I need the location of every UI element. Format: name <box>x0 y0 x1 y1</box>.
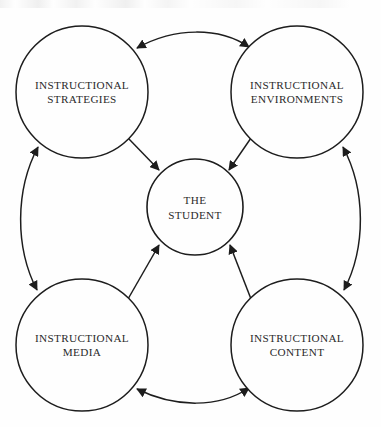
node-instructional-media[interactable]: INSTRUCTIONAL MEDIA <box>16 279 148 411</box>
node-circle-the-student[interactable] <box>147 159 243 255</box>
node-the-student[interactable]: THE STUDENT <box>147 159 243 255</box>
node-circle-instructional-strategies[interactable] <box>16 26 148 158</box>
node-label-instructional-strategies-line1: INSTRUCTIONAL <box>35 79 129 91</box>
diagram-page: INSTRUCTIONAL STRATEGIES INSTRUCTIONAL E… <box>0 0 381 427</box>
connector-media-to-student <box>128 245 159 299</box>
node-label-instructional-environments-line2: ENVIRONMENTS <box>251 93 343 105</box>
node-circle-instructional-content[interactable] <box>231 279 363 411</box>
node-circle-instructional-media[interactable] <box>16 279 148 411</box>
node-label-instructional-content-line1: INSTRUCTIONAL <box>250 332 344 344</box>
node-label-the-student-line2: STUDENT <box>168 209 221 221</box>
connector-strategies-media <box>21 147 38 290</box>
connector-strategies-to-student <box>128 138 159 170</box>
instructional-system-diagram: INSTRUCTIONAL STRATEGIES INSTRUCTIONAL E… <box>0 0 381 427</box>
connector-media-content <box>137 388 249 403</box>
node-label-instructional-media-line2: MEDIA <box>63 346 101 358</box>
node-instructional-content[interactable]: INSTRUCTIONAL CONTENT <box>231 279 363 411</box>
node-label-instructional-environments-line1: INSTRUCTIONAL <box>250 79 344 91</box>
node-label-instructional-strategies-line2: STRATEGIES <box>47 93 116 105</box>
connector-content-to-student <box>230 245 251 299</box>
node-label-instructional-media-line1: INSTRUCTIONAL <box>35 332 129 344</box>
connector-environments-content <box>343 147 360 290</box>
connector-strategies-environments <box>137 32 249 48</box>
node-circle-instructional-environments[interactable] <box>231 26 363 158</box>
node-instructional-strategies[interactable]: INSTRUCTIONAL STRATEGIES <box>16 26 148 158</box>
connector-environments-to-student <box>229 138 251 170</box>
node-label-the-student-line1: THE <box>184 194 207 206</box>
node-instructional-environments[interactable]: INSTRUCTIONAL ENVIRONMENTS <box>231 26 363 158</box>
node-label-instructional-content-line2: CONTENT <box>270 346 325 358</box>
